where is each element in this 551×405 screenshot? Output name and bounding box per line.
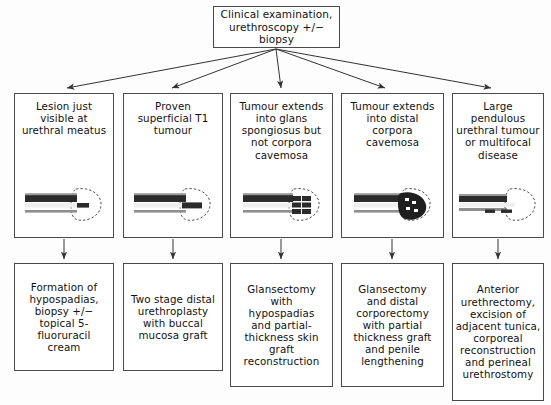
urethra-distal-corpora-icon <box>350 185 436 225</box>
stage-label: Tumour extends into distal corpora cavem… <box>348 100 436 149</box>
treatment-label: Glansectomy with hypospadias and partial… <box>242 283 322 368</box>
treatment-label: Two stage distal urethroplasty with bucc… <box>129 293 217 342</box>
treatment-node-anterior-urethrectomy[interactable]: Anterior urethrectomy, excision of adjac… <box>452 263 544 401</box>
stage-node-superficial-t1[interactable]: Proven superficial T1 tumour <box>123 93 223 238</box>
branch-arrow-5 <box>276 49 491 88</box>
urethra-superficial-t1-icon <box>130 185 216 225</box>
branch-arrow-2 <box>172 49 276 88</box>
treatment-node-hypospadias-5fu[interactable]: Formation of hypospadias, biopsy +/− top… <box>14 263 114 371</box>
stage-node-large-pendulous-tumour[interactable]: Large pendulous urethral tumour or multi… <box>452 93 544 238</box>
treatment-label: Anterior urethrectomy, excision of adjac… <box>454 283 543 380</box>
branch-arrow-1 <box>67 49 276 88</box>
flowchart-canvas: Clinical examination, urethroscopy +/− b… <box>0 0 551 405</box>
stage-node-distal-corpora-cavernosa[interactable]: Tumour extends into distal corpora cavem… <box>341 93 444 238</box>
stage-to-treatment-arrows <box>64 239 498 259</box>
node-label: Clinical examination, urethroscopy +/− b… <box>214 8 339 45</box>
root-branch-arrows <box>67 49 491 88</box>
branch-arrow-3 <box>276 49 281 88</box>
treatment-label: Formation of hypospadias, biopsy +/− top… <box>27 281 100 354</box>
stage-label: Lesion just visible at urethral meatus <box>20 100 108 136</box>
stage-node-lesion-at-meatus[interactable]: Lesion just visible at urethral meatus <box>14 93 114 238</box>
stage-label: Large pendulous urethral tumour or multi… <box>454 100 541 161</box>
urethra-lesion-meatus-icon <box>21 185 107 225</box>
treatment-node-glansectomy-skin-graft[interactable]: Glansectomy with hypospadias and partial… <box>230 263 333 387</box>
urethra-pendulous-multifocal-icon <box>455 185 541 225</box>
treatment-label: Glansectomy and distal corporectomy with… <box>352 283 434 368</box>
treatment-node-two-stage-urethroplasty[interactable]: Two stage distal urethroplasty with bucc… <box>123 263 223 371</box>
stage-label: Tumour extends into glans spongiosus but… <box>237 100 325 161</box>
stage-node-glans-spongiosus[interactable]: Tumour extends into glans spongiosus but… <box>230 93 333 238</box>
treatment-node-glansectomy-corporectomy[interactable]: Glansectomy and distal corporectomy with… <box>341 263 444 387</box>
branch-arrow-4 <box>276 49 385 88</box>
urethra-glans-spongiosus-icon <box>239 185 325 225</box>
stage-label: Proven superficial T1 tumour <box>136 100 211 136</box>
node-clinical-examination[interactable]: Clinical examination, urethroscopy +/− b… <box>213 6 340 48</box>
